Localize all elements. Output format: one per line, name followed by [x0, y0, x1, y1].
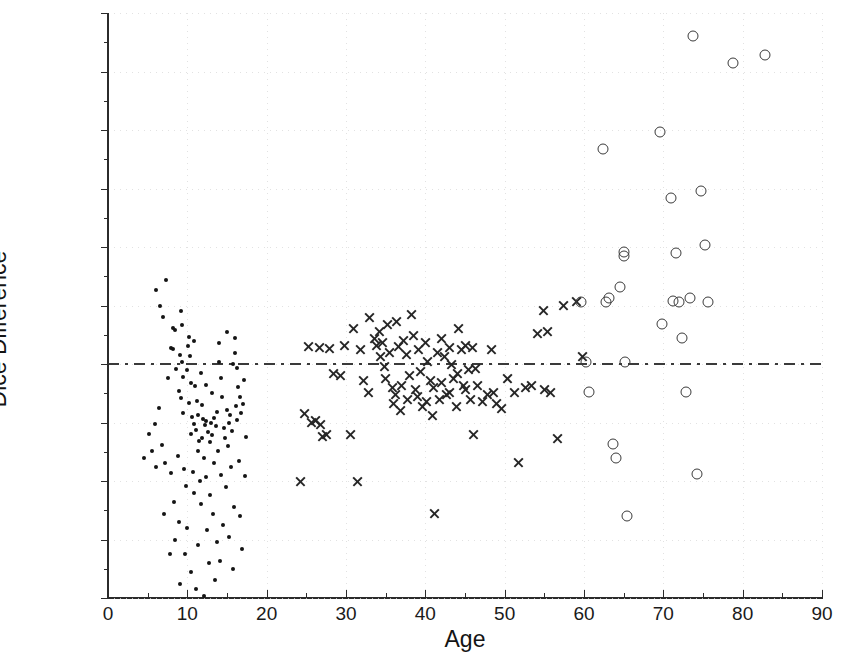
data-point-children	[241, 402, 245, 406]
data-point-adults	[335, 370, 346, 381]
data-point-adults	[488, 387, 499, 398]
data-point-children	[214, 424, 218, 428]
data-point-adults	[558, 300, 569, 311]
x-tick-label: 90	[811, 603, 832, 625]
y-tick	[101, 130, 109, 131]
data-point-children	[193, 384, 197, 388]
data-point-children	[157, 406, 161, 410]
data-point-children	[233, 351, 237, 355]
data-point-adults	[406, 309, 417, 320]
data-point-children	[204, 419, 208, 423]
plot-area	[108, 13, 822, 598]
grid-line-horizontal	[108, 598, 822, 599]
data-point-children	[225, 330, 229, 334]
data-point-children	[192, 491, 196, 495]
x-tick-minor	[544, 593, 545, 598]
x-tick	[505, 590, 506, 598]
data-point-children	[225, 408, 229, 412]
x-tick-minor	[227, 593, 228, 598]
data-point-children	[174, 367, 178, 371]
data-point-adults	[391, 316, 402, 327]
x-tick-label: 40	[415, 603, 436, 625]
data-point-children	[168, 552, 172, 556]
data-point-children	[229, 465, 233, 469]
data-point-adults	[352, 476, 363, 487]
data-point-children	[192, 422, 196, 426]
x-tick-label: 30	[335, 603, 356, 625]
y-tick-minor	[104, 510, 109, 511]
x-tick-label: 70	[653, 603, 674, 625]
data-point-elderly	[615, 281, 626, 292]
data-point-elderly	[728, 58, 739, 69]
data-point-children	[208, 493, 212, 497]
data-point-adults	[321, 429, 332, 440]
data-point-children	[171, 326, 175, 330]
x-tick	[822, 590, 823, 598]
y-tick	[101, 189, 109, 190]
grid-line-vertical	[822, 13, 823, 598]
data-point-children	[219, 376, 223, 380]
data-point-elderly	[575, 296, 586, 307]
x-tick-minor	[148, 593, 149, 598]
data-point-adults	[452, 368, 463, 379]
y-tick-minor	[104, 452, 109, 453]
data-point-children	[198, 479, 202, 483]
x-tick	[425, 590, 426, 598]
data-point-children	[166, 376, 170, 380]
data-point-adults	[496, 403, 507, 414]
y-tick	[101, 247, 109, 248]
data-point-adults	[348, 323, 359, 334]
data-point-children	[181, 375, 185, 379]
data-point-children	[218, 559, 222, 563]
data-point-children	[188, 354, 192, 358]
data-point-adults	[408, 330, 419, 341]
data-point-children	[236, 385, 240, 389]
grid-line-horizontal	[108, 481, 822, 482]
data-point-children	[150, 449, 154, 453]
y-tick-minor	[104, 218, 109, 219]
data-point-children	[191, 470, 195, 474]
data-point-adults	[538, 305, 549, 316]
data-point-adults	[363, 387, 374, 398]
y-axis-tick-labels: -0.02-0.015-0.01-0.00500.0050.010.0150.0…	[0, 0, 100, 659]
x-tick	[584, 590, 585, 598]
data-point-children	[210, 391, 214, 395]
data-point-elderly	[691, 468, 702, 479]
data-point-adults	[390, 389, 401, 400]
data-point-adults	[324, 343, 335, 354]
data-point-elderly	[677, 333, 688, 344]
data-point-children	[192, 339, 196, 343]
data-point-children	[160, 443, 164, 447]
data-point-children	[238, 514, 242, 518]
data-point-elderly	[699, 239, 710, 250]
data-point-children	[232, 505, 236, 509]
data-point-children	[235, 418, 239, 422]
data-point-children	[221, 523, 225, 527]
data-point-children	[164, 278, 168, 282]
data-point-children	[187, 401, 191, 405]
data-point-children	[212, 416, 216, 420]
data-point-children	[202, 456, 206, 460]
data-point-children	[194, 587, 198, 591]
data-point-children	[217, 360, 221, 364]
data-point-children	[184, 484, 188, 488]
data-point-children	[195, 399, 199, 403]
data-point-children	[233, 336, 237, 340]
data-point-adults	[427, 410, 438, 421]
data-point-children	[162, 512, 166, 516]
data-point-children	[213, 578, 217, 582]
data-point-children	[189, 432, 193, 436]
data-point-children	[230, 429, 234, 433]
data-point-children	[190, 415, 194, 419]
y-tick	[101, 540, 109, 541]
grid-line-horizontal	[108, 72, 822, 73]
data-point-elderly	[696, 185, 707, 196]
data-point-children	[209, 421, 213, 425]
data-point-children	[199, 502, 203, 506]
x-tick-label: 50	[494, 603, 515, 625]
data-point-children	[154, 465, 158, 469]
data-point-children	[179, 396, 183, 400]
data-point-children	[177, 520, 181, 524]
data-point-elderly	[680, 387, 691, 398]
data-point-children	[217, 341, 221, 345]
